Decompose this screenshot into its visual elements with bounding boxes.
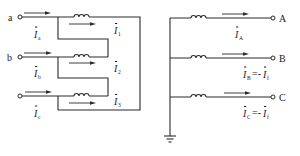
svg-text:2: 2 xyxy=(118,69,121,75)
current-label-iC: I C =- I f xyxy=(242,106,269,120)
arrow-icon xyxy=(69,22,96,25)
ground-icon xyxy=(164,136,176,142)
svg-text:f: f xyxy=(267,114,269,120)
current-label-ia: I a xyxy=(33,27,41,42)
terminal-C xyxy=(271,95,275,99)
terminal-label-b: b xyxy=(7,52,12,63)
terminal-label-C: C xyxy=(279,92,286,103)
current-label-ib: I b xyxy=(33,66,41,80)
current-label-i3: I 3 xyxy=(113,94,121,108)
current-label-iA: I A xyxy=(234,27,243,42)
arrow-icon xyxy=(222,12,249,15)
svg-text:=-: =- xyxy=(252,107,261,118)
terminal-b xyxy=(18,55,22,59)
arrow-icon xyxy=(24,11,51,14)
inductor-1-icon xyxy=(74,15,89,18)
svg-text:b: b xyxy=(38,74,41,80)
arrow-icon xyxy=(69,61,96,64)
terminal-label-a: a xyxy=(8,12,13,23)
inductor-c-icon xyxy=(191,95,206,98)
current-label-ic: I c xyxy=(33,106,41,121)
wire-1-to-2 xyxy=(58,17,108,57)
svg-text:=-: =- xyxy=(252,68,261,79)
current-label-iB: I B =- I f xyxy=(242,67,269,82)
terminal-c xyxy=(18,94,22,98)
arrow-icon xyxy=(222,52,249,55)
arrow-icon xyxy=(24,51,52,54)
inductor-2-icon xyxy=(74,55,89,57)
arrow-icon xyxy=(224,91,251,94)
inductor-b-icon xyxy=(191,56,206,59)
inductor-a-icon xyxy=(191,16,206,18)
svg-text:a: a xyxy=(38,35,41,41)
current-label-i2: I 2 xyxy=(113,61,121,75)
arrow-icon xyxy=(25,90,52,93)
terminal-label-B: B xyxy=(279,53,286,64)
left-circuit: a b xyxy=(7,11,140,120)
svg-text:f: f xyxy=(267,75,269,81)
current-label-i1: I 1 xyxy=(113,23,121,37)
circuit-diagram: a b xyxy=(0,0,300,156)
terminal-A xyxy=(271,16,275,20)
terminal-a xyxy=(18,15,22,19)
svg-text:B: B xyxy=(247,75,251,81)
arrow-icon xyxy=(69,101,96,104)
inductor-3-icon xyxy=(74,94,89,97)
svg-text:c: c xyxy=(38,114,41,120)
terminal-label-A: A xyxy=(279,13,287,24)
svg-text:1: 1 xyxy=(118,31,121,37)
terminal-B xyxy=(271,56,275,60)
svg-text:C: C xyxy=(247,114,251,120)
svg-text:3: 3 xyxy=(118,102,121,108)
svg-text:A: A xyxy=(239,35,243,41)
right-circuit: A B C I A I B xyxy=(164,12,287,142)
